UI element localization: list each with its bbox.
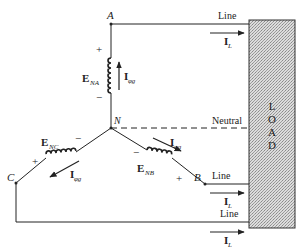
svg-text:L: L xyxy=(227,202,232,210)
svg-text:E: E xyxy=(137,162,144,174)
load-letter-o: O xyxy=(268,113,276,125)
enb-plus: + xyxy=(176,172,182,184)
svg-text:L: L xyxy=(227,241,232,249)
svg-text:L: L xyxy=(227,42,232,50)
line-b-label: Line xyxy=(212,170,231,181)
load-letter-a: A xyxy=(268,126,276,138)
ena-plus: + xyxy=(96,43,102,55)
line-a-label: Line xyxy=(218,10,237,21)
svg-text:φg: φg xyxy=(74,175,82,183)
ena-label: E NA xyxy=(82,72,100,87)
neutral-label: Neutral xyxy=(212,115,242,126)
load-letter-l: L xyxy=(269,100,276,112)
load-letter-d: D xyxy=(268,139,276,151)
coil-ena-icon xyxy=(108,58,111,93)
node-a-label: A xyxy=(106,9,114,21)
enc-plus: + xyxy=(32,155,38,167)
svg-text:NB: NB xyxy=(144,169,155,177)
load-label: L O A D xyxy=(268,100,276,151)
line-current-a-label: I L xyxy=(224,35,232,50)
svg-text:φg: φg xyxy=(174,143,182,151)
node-b-label: B xyxy=(194,171,201,183)
node-a-dot xyxy=(110,23,113,26)
svg-text:φg: φg xyxy=(128,77,136,85)
svg-text:NA: NA xyxy=(89,79,100,87)
enc-label: E NC xyxy=(41,136,59,151)
coil-enb-icon xyxy=(147,147,172,154)
node-c-label: C xyxy=(7,171,15,183)
svg-text:NC: NC xyxy=(48,143,59,151)
phase-current-c-label: I φg xyxy=(70,168,82,183)
y-connected-generator-diagram: L O A D A + − E NA I φg Line I L N Neutr… xyxy=(0,0,301,249)
line-current-c-label: I L xyxy=(224,234,232,249)
svg-text:E: E xyxy=(82,72,89,84)
ena-minus: − xyxy=(96,91,102,103)
enb-minus: − xyxy=(133,146,139,158)
node-b-dot xyxy=(204,183,207,186)
node-c-dot xyxy=(15,182,18,185)
node-n-label: N xyxy=(113,115,122,126)
enc-minus: − xyxy=(75,132,81,144)
phase-current-a-label: I φg xyxy=(124,70,136,85)
phase-current-b-label: I φg xyxy=(170,136,182,151)
enb-label: E NB xyxy=(137,162,155,177)
svg-text:E: E xyxy=(41,136,48,148)
